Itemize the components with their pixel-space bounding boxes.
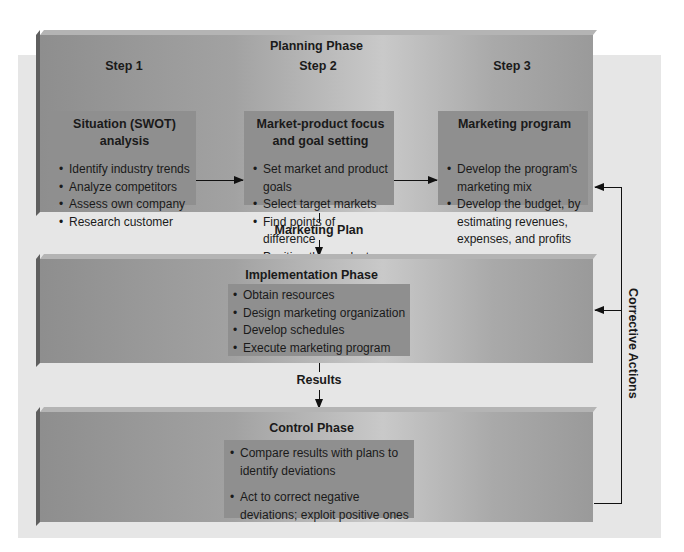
control-box: Compare results with plans to identify d…	[224, 440, 414, 518]
bullet-item: Obtain resources	[233, 287, 406, 305]
bullet-item: Set market and product goals	[253, 161, 388, 196]
bullet-item: Execute marketing program	[233, 340, 406, 358]
corrective-vertical-line	[621, 187, 622, 504]
step-1-title-line-1: Situation (SWOT)	[59, 116, 190, 133]
step-2-box: Market-product focus and goal setting Se…	[244, 111, 394, 205]
implementation-phase-title: Implementation Phase	[30, 268, 593, 282]
step-2-title-line-2: and goal setting	[253, 133, 388, 150]
bullet-item: Act to correct negative deviations; expl…	[230, 489, 410, 524]
bullet-item: Compare results with plans to identify d…	[230, 445, 410, 480]
results-label: Results	[259, 373, 379, 387]
bullet-item: Develop schedules	[233, 322, 406, 340]
step-1-title: Situation (SWOT) analysis	[59, 116, 190, 150]
step-3-label: Step 3	[437, 59, 587, 73]
marketing-plan-arrow	[319, 240, 320, 256]
step-1-label: Step 1	[49, 59, 199, 73]
implementation-phase-box: Implementation Phase Obtain resources De…	[40, 259, 593, 363]
step-3-title-line-1: Marketing program	[447, 116, 582, 133]
control-phase-title: Control Phase	[30, 421, 593, 435]
marketing-plan-line-top	[319, 213, 320, 222]
step-2-title: Market-product focus and goal setting	[253, 116, 388, 150]
control-exit-line	[594, 503, 621, 504]
bullet-item: Analyze competitors	[59, 179, 190, 197]
step-3-box: Marketing program Develop the program's …	[438, 111, 588, 205]
step-2-label: Step 2	[243, 59, 393, 73]
corrective-arrow-to-implementation	[595, 310, 621, 311]
step-1-bullets: Identify industry trends Analyze competi…	[59, 161, 190, 231]
control-phase-box: Control Phase Compare results with plans…	[40, 412, 593, 522]
step-3-bullets: Develop the program's marketing mix Deve…	[447, 161, 582, 249]
bullet-item: Design marketing organization	[233, 305, 406, 323]
marketing-plan-label: Marketing Plan	[259, 223, 379, 237]
step-1-title-line-2: analysis	[59, 133, 190, 150]
corrective-actions-label: Corrective Actions	[625, 272, 641, 414]
results-line-top	[319, 363, 320, 372]
planning-phase-box: Planning Phase Step 1 Step 2 Step 3 Situ…	[40, 35, 593, 212]
implementation-box: Obtain resources Design marketing organi…	[228, 284, 410, 356]
arrow-step1-to-step2	[196, 180, 243, 181]
bullet-item: Assess own company	[59, 196, 190, 214]
step-2-title-line-1: Market-product focus	[253, 116, 388, 133]
results-arrow	[319, 390, 320, 408]
bullet-item: Select target markets	[253, 196, 388, 214]
step-1-box: Situation (SWOT) analysis Identify indus…	[50, 111, 196, 205]
bullet-item: Develop the program's marketing mix	[447, 161, 582, 196]
implementation-bullets: Obtain resources Design marketing organi…	[233, 287, 406, 357]
step-3-title: Marketing program	[447, 116, 582, 133]
bullet-item: Research customer	[59, 214, 190, 232]
corrective-arrow-to-step3	[595, 187, 621, 188]
planning-phase-title: Planning Phase	[40, 39, 593, 53]
bullet-item: Develop the budget, by estimating revenu…	[447, 196, 582, 249]
control-bullets: Compare results with plans to identify d…	[230, 445, 410, 524]
arrow-step2-to-step3	[394, 180, 437, 181]
bullet-item: Identify industry trends	[59, 161, 190, 179]
